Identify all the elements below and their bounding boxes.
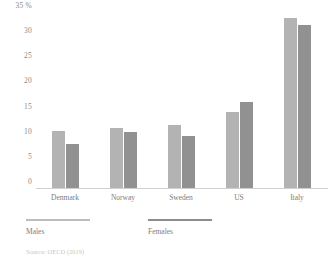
y-axis-tick-label: 25 [0, 52, 32, 60]
source-note: Source: OECD (2019) [26, 248, 84, 256]
bar-us-males [226, 112, 239, 188]
y-axis-tick-label: 15 [0, 103, 32, 111]
legend-swatch-males-icon [26, 219, 90, 221]
bar-group [268, 12, 326, 188]
bar-italy-males [284, 18, 297, 188]
x-axis-baseline [36, 188, 328, 189]
legend-label-males: Males [26, 227, 90, 236]
x-axis-tick-label: Sweden [152, 193, 210, 202]
x-axis-tick-label: Norway [94, 193, 152, 202]
bar-norway-males [110, 128, 123, 188]
bar-chart: 35 %302520151050 Males Females Source: O… [0, 0, 332, 257]
y-axis-tick-label: 30 [0, 27, 32, 35]
y-axis: 35 %302520151050 [0, 6, 32, 188]
bar-group [210, 12, 268, 188]
plot-area [36, 12, 326, 188]
x-axis-tick-label: Italy [268, 193, 326, 202]
bar-group [152, 12, 210, 188]
legend-swatch-females-icon [148, 219, 212, 221]
legend-label-females: Females [148, 227, 212, 236]
legend-item-males: Males [26, 219, 90, 236]
y-axis-tick-label: 5 [0, 153, 32, 161]
bar-sweden-females [182, 136, 195, 188]
bar-italy-females [298, 25, 311, 188]
bar-denmark-females [66, 144, 79, 188]
y-axis-tick-label: 0 [0, 178, 32, 186]
bar-sweden-males [168, 125, 181, 188]
y-axis-tick-label: 35 % [0, 2, 32, 10]
bar-us-females [240, 102, 253, 188]
x-axis-tick-label: US [210, 193, 268, 202]
bar-denmark-males [52, 131, 65, 188]
bar-group [94, 12, 152, 188]
x-axis-tick-label: Denmark [36, 193, 94, 202]
y-axis-tick-label: 20 [0, 77, 32, 85]
legend-item-females: Females [148, 219, 212, 236]
bar-group [36, 12, 94, 188]
y-axis-tick-label: 10 [0, 128, 32, 136]
bar-norway-females [124, 132, 137, 188]
